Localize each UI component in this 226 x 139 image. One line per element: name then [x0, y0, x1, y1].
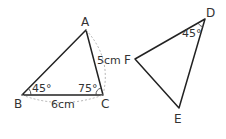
vertex-label-a: A: [81, 15, 90, 29]
vertex-label-b: B: [14, 97, 22, 111]
angle-label-b: 45°: [32, 82, 52, 95]
geometry-diagram: A B C 45° 75° 6cm 5cm D E F 45°: [0, 0, 226, 139]
angle-label-d: 45°: [182, 27, 202, 40]
side-label-ac: 5cm: [97, 54, 121, 67]
vertex-label-f: F: [124, 53, 131, 67]
angle-label-c: 75°: [78, 82, 98, 95]
angle-arc-b: [29, 89, 32, 96]
vertex-label-c: C: [101, 97, 109, 111]
side-label-bc: 6cm: [51, 98, 75, 111]
vertex-label-d: D: [206, 6, 215, 20]
vertex-label-e: E: [174, 112, 182, 126]
